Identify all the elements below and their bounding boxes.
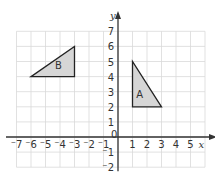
y-tick-label: 3 — [108, 87, 114, 98]
y-tick-label: 7 — [108, 26, 114, 37]
coordinate-grid-diagram: BA x y 0 ⁻7⁻6⁻5⁻4⁻3⁻2⁻112345⁻2⁻11234567 — [0, 0, 215, 182]
y-tick-label: 4 — [108, 72, 114, 83]
x-tick-label: ⁻2 — [83, 139, 95, 150]
y-tick-label: 1 — [108, 117, 114, 128]
x-axis-arrow-icon — [209, 134, 215, 140]
x-tick-label: 1 — [129, 139, 135, 150]
x-tick-label: ⁻6 — [25, 139, 37, 150]
triangle-label: A — [136, 89, 143, 100]
origin-label: 0 — [111, 129, 117, 140]
y-axis-label: y — [109, 10, 116, 21]
x-tick-label: ⁻5 — [40, 139, 52, 150]
x-tick-label: 2 — [144, 139, 150, 150]
y-tick-label: ⁻2 — [102, 162, 114, 173]
y-axis-arrow-icon — [115, 11, 121, 19]
triangle-label: B — [55, 60, 62, 71]
x-tick-label: ⁻7 — [11, 139, 23, 150]
x-tick-label: ⁻4 — [54, 139, 66, 150]
x-tick-label: 5 — [187, 139, 193, 150]
x-tick-label: 3 — [158, 139, 164, 150]
y-tick-label: 5 — [108, 57, 114, 68]
tick-labels: ⁻7⁻6⁻5⁻4⁻3⁻2⁻112345⁻2⁻11234567 — [11, 26, 194, 173]
y-tick-label: ⁻1 — [102, 147, 114, 158]
x-tick-label: ⁻3 — [69, 139, 81, 150]
y-tick-label: 6 — [108, 41, 114, 52]
y-tick-label: 2 — [108, 102, 114, 113]
x-axis-label: x — [199, 139, 205, 150]
x-tick-label: 4 — [173, 139, 179, 150]
